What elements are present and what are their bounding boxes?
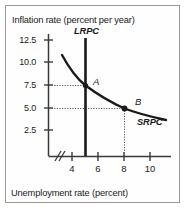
x-axis-title: Unemployment rate (percent) bbox=[11, 188, 128, 198]
x-tick-label-4: 4 bbox=[64, 163, 80, 174]
point-marker-b bbox=[122, 106, 128, 112]
x-tick-label-8: 8 bbox=[116, 163, 132, 174]
srpc-curve-label: SRPC bbox=[137, 117, 162, 127]
y-tick-label-5-0: 5.0 bbox=[8, 103, 36, 113]
srpc-curve bbox=[62, 55, 166, 120]
y-tick-label-10-0: 10.0 bbox=[8, 57, 36, 67]
y-axis-title: Inflation rate (percent per year) bbox=[12, 15, 135, 25]
x-tick-label-10: 10 bbox=[142, 163, 158, 174]
y-tick-label-12-5: 12.5 bbox=[8, 35, 36, 45]
y-tick-label-7-5: 7.5 bbox=[8, 80, 36, 90]
lrpc-curve-label: LRPC bbox=[74, 26, 99, 36]
point-label-a: A bbox=[93, 76, 99, 87]
point-marker-a bbox=[83, 83, 88, 88]
phillips-curve-figure: Inflation rate (percent per year) Unempl… bbox=[0, 0, 187, 210]
x-tick-label-6: 6 bbox=[90, 163, 106, 174]
y-tick-label-2-5: 2.5 bbox=[8, 125, 36, 135]
point-label-b: B bbox=[135, 96, 141, 107]
